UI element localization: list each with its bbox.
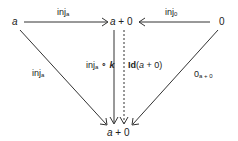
label-sub: a + 0 bbox=[199, 73, 213, 79]
node-a-plus-0-top: a + 0 bbox=[110, 17, 133, 27]
node-var: a bbox=[12, 16, 18, 27]
label-zero-a-plus-0: 0a + 0 bbox=[194, 70, 213, 79]
label-close: + 0) bbox=[144, 60, 162, 70]
label-base: inj bbox=[165, 7, 174, 17]
label-id: Id bbox=[128, 60, 136, 70]
label-sub: a bbox=[66, 11, 69, 17]
label-var: k bbox=[109, 60, 114, 70]
label-base: inj bbox=[86, 60, 95, 70]
label-base: inj bbox=[32, 68, 41, 78]
label-inj-a-top: inja bbox=[57, 8, 69, 17]
label-inj-0: inj0 bbox=[165, 8, 177, 17]
node-a-left: a bbox=[12, 17, 18, 27]
label-base: inj bbox=[57, 7, 66, 17]
node-a-plus-0-bottom: a + 0 bbox=[107, 128, 130, 138]
label-id-a-plus-0: Id(a + 0) bbox=[128, 61, 162, 70]
node-zero-right: 0 bbox=[219, 17, 225, 27]
label-sub: a bbox=[41, 72, 44, 78]
label-op: ∘ bbox=[98, 60, 109, 70]
label-inj-a-compose-k: inja ∘ k bbox=[86, 61, 114, 70]
label-inj-a-diag: inja bbox=[32, 69, 44, 78]
node-rest: + 0 bbox=[113, 127, 130, 138]
node-rest: + 0 bbox=[116, 16, 133, 27]
label-sub: 0 bbox=[174, 11, 177, 17]
